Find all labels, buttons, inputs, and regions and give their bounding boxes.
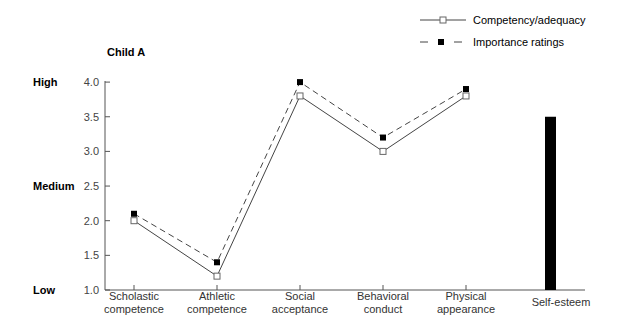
svg-text:Scholastic: Scholastic [109, 290, 160, 302]
chart-svg: Child A1.01.52.02.53.03.54.0HighMediumLo… [0, 0, 617, 336]
svg-text:acceptance: acceptance [272, 303, 328, 315]
svg-text:Behavioral: Behavioral [357, 290, 409, 302]
svg-text:3.5: 3.5 [84, 111, 99, 123]
svg-text:Social: Social [285, 290, 315, 302]
chart-title: Child A [107, 46, 145, 58]
svg-text:Low: Low [33, 284, 55, 296]
svg-text:High: High [33, 76, 58, 88]
svg-text:2.5: 2.5 [84, 180, 99, 192]
svg-text:3.0: 3.0 [84, 145, 99, 157]
svg-text:Importance ratings: Importance ratings [473, 36, 565, 48]
svg-text:1.5: 1.5 [84, 249, 99, 261]
svg-text:Athletic: Athletic [199, 290, 236, 302]
svg-text:Medium: Medium [33, 180, 75, 192]
svg-text:2.0: 2.0 [84, 215, 99, 227]
svg-text:Physical: Physical [446, 290, 487, 302]
svg-text:conduct: conduct [364, 303, 403, 315]
svg-text:competence: competence [104, 303, 164, 315]
svg-text:4.0: 4.0 [84, 76, 99, 88]
svg-text:Self-esteem: Self-esteem [532, 296, 591, 308]
svg-text:competence: competence [187, 303, 247, 315]
self-esteem-bar [545, 117, 556, 290]
svg-text:Competency/adequacy: Competency/adequacy [473, 14, 586, 26]
chart: Child A1.01.52.02.53.03.54.0HighMediumLo… [0, 0, 617, 336]
svg-text:appearance: appearance [437, 303, 495, 315]
svg-text:1.0: 1.0 [84, 284, 99, 296]
